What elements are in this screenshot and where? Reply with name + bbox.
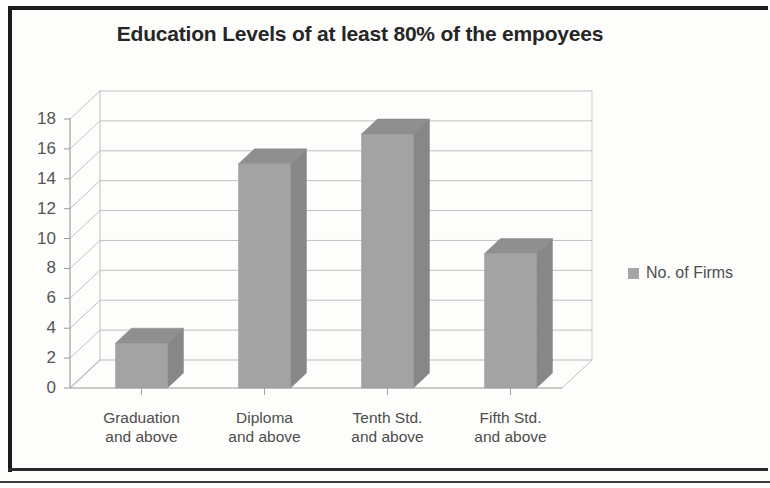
bar-group xyxy=(116,119,553,388)
bar-column xyxy=(362,119,430,388)
legend-swatch-icon xyxy=(628,268,639,279)
x-axis-category-label-line: and above xyxy=(456,427,566,446)
y-axis-tick-label: 18 xyxy=(14,110,56,127)
y-axis-tick-label: 4 xyxy=(14,319,56,336)
y-axis-tick-label: 8 xyxy=(14,259,56,276)
bar-column xyxy=(116,328,184,388)
y-axis-tick-label: 2 xyxy=(14,349,56,366)
y-axis-tick-label: 14 xyxy=(14,170,56,187)
chart-page: Education Levels of at least 80% of the … xyxy=(0,0,770,488)
x-axis-category-label: Fifth Std.and above xyxy=(456,408,566,447)
x-axis-category-label-line: Graduation xyxy=(87,408,197,427)
x-axis-category-label-line: and above xyxy=(210,427,320,446)
x-axis-category-label: Graduationand above xyxy=(87,408,197,447)
x-axis-category-label-line: Fifth Std. xyxy=(456,408,566,427)
chart-legend: No. of Firms xyxy=(628,264,733,282)
y-axis-tick-label: 10 xyxy=(14,230,56,247)
legend-entry-label: No. of Firms xyxy=(646,264,733,282)
y-axis-tick-label: 12 xyxy=(14,200,56,217)
x-axis-category-label: Diplomaand above xyxy=(210,408,320,447)
x-axis-category-label-line: and above xyxy=(87,427,197,446)
x-axis-category-label: Tenth Std.and above xyxy=(333,408,443,447)
y-axis-tick-label: 6 xyxy=(14,289,56,306)
y-axis-tick-label: 16 xyxy=(14,140,56,157)
bar-column xyxy=(485,239,553,389)
x-axis-category-label-line: Tenth Std. xyxy=(333,408,443,427)
y-axis-tick-label: 0 xyxy=(14,379,56,396)
bar-column xyxy=(239,149,307,388)
x-axis-category-label-line: Diploma xyxy=(210,408,320,427)
x-axis-category-label-line: and above xyxy=(333,427,443,446)
